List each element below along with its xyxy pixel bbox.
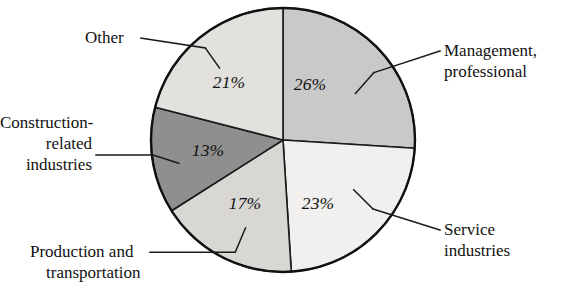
pie-category-label-management-line2: professional [444, 61, 537, 82]
pie-category-label-management[interactable]: Management, professional [444, 40, 537, 82]
pie-value-label-management: 26% [294, 74, 326, 95]
pie-category-label-construction-line1: Construction- [0, 112, 92, 133]
pie-category-label-management-line1: Management, [444, 40, 537, 61]
pie-category-label-other[interactable]: Other [85, 27, 124, 48]
pie-category-label-production-line1: Production and [30, 241, 140, 262]
pie-category-label-construction[interactable]: Construction- related industries [0, 112, 92, 175]
pie-category-label-service-line2: industries [444, 240, 510, 261]
pie-category-label-service-line1: Service [444, 219, 510, 240]
pie-chart-figure: 26% 23% 17% 13% 21% Management, professi… [0, 0, 566, 289]
pie-value-label-construction: 13% [192, 140, 224, 161]
pie-category-label-construction-line2: related [0, 133, 92, 154]
pie-category-label-construction-line3: industries [0, 154, 92, 175]
pie-value-label-service: 23% [302, 193, 334, 214]
pie-category-label-service[interactable]: Service industries [444, 219, 510, 261]
pie-category-label-production[interactable]: Production and transportation [30, 241, 140, 283]
pie-value-label-production: 17% [229, 193, 261, 214]
pie-category-label-production-line2: transportation [30, 262, 140, 283]
pie-value-label-other: 21% [213, 72, 245, 93]
pie-category-label-other-line1: Other [85, 27, 124, 48]
